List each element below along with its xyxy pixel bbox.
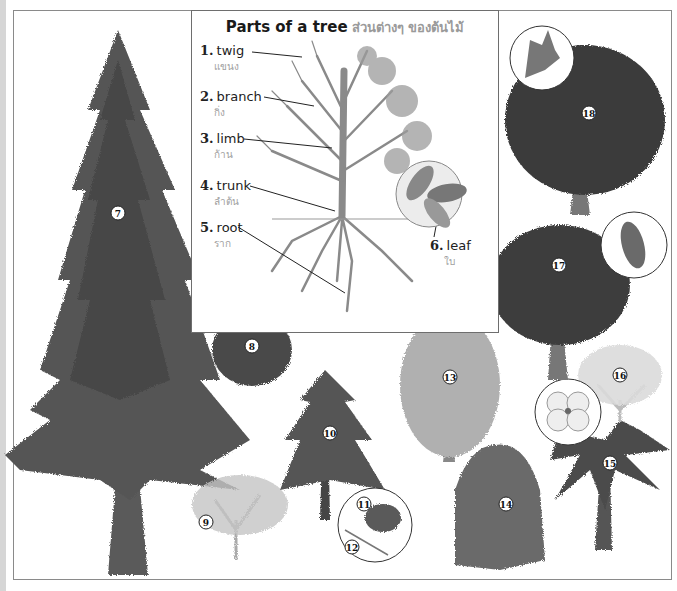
tree-badge-18: 18 [582,106,597,121]
part-label-branch: 2.branch กิ่ง [200,90,262,120]
part-number: 4. [200,178,214,193]
part-name: root [217,220,243,235]
part-name: branch [217,89,262,104]
tree-badge-16: 16 [613,368,628,383]
part-number: 1. [200,43,214,58]
tree-badge-11: 11 [357,497,372,512]
part-label-root: 5.root ราก [200,221,243,251]
part-number: 5. [200,220,214,235]
part-number: 6. [430,238,444,253]
tree-badge-10: 10 [323,426,338,441]
part-number: 3. [200,131,214,146]
tree-badge-8: 8 [245,339,260,354]
part-name: limb [217,131,245,146]
part-label-leaf: 6.leaf ใบ [430,239,471,269]
dogwood-flower-circle [535,379,601,445]
tree-badge-7: 7 [111,206,126,221]
part-label-trunk: 4.trunk ลำต้น [200,179,251,209]
part-name-thai: ก้าน [214,148,245,162]
part-name: twig [217,43,245,58]
oak-leaf-circle [510,26,574,90]
part-number: 2. [200,89,214,104]
part-name: trunk [217,178,251,193]
tree-badge-9: 9 [199,515,214,530]
part-name-thai: ใบ [444,255,471,269]
part-label-twig: 1.twig แขนง [200,44,244,74]
part-name: leaf [447,238,471,253]
elm-leaf-circle [601,212,667,278]
part-name-thai: แขนง [214,60,244,74]
part-name-thai: ราก [214,237,243,251]
part-name-thai: กิ่ง [214,106,262,120]
parts-of-a-tree-inset: Parts of a treeส่วนต่างๆ ของต้นไม้ [191,10,499,333]
tree-badge-15: 15 [603,456,618,471]
tree-badge-13: 13 [443,370,458,385]
tree-badge-12: 12 [345,540,360,555]
tree-13 [400,313,500,462]
part-name-thai: ลำต้น [214,195,251,209]
tree-badge-17: 17 [552,258,567,273]
tree-badge-14: 14 [499,497,514,512]
part-label-limb: 3.limb ก้าน [200,132,245,162]
